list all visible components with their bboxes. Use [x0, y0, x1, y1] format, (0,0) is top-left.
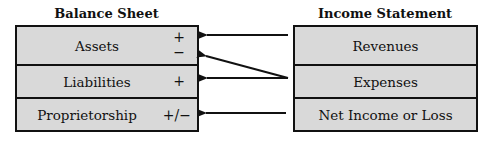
arrow-expenses-to-assets — [206, 56, 288, 78]
arrows-layer — [0, 0, 493, 145]
